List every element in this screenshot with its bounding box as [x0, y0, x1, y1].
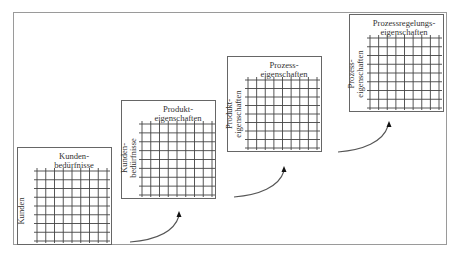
arrowhead-icon	[282, 166, 287, 172]
arrowhead-icon	[387, 121, 392, 127]
connector-arrow-1-2	[130, 211, 182, 242]
connector-arrows	[0, 0, 461, 259]
connector-arrow-2-3	[234, 166, 287, 197]
connector-arrow-3-4	[338, 121, 392, 152]
arrowhead-icon	[177, 211, 182, 217]
